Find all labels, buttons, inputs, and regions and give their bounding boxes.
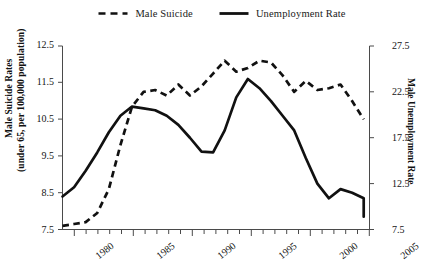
- left-axis-ticks: [58, 46, 63, 230]
- chart-figure: Male Suicide Unemployment Rate Male Suic…: [0, 0, 444, 278]
- series-line-male-suicide: [63, 61, 364, 226]
- right-axis-ticks: [370, 46, 375, 230]
- x-axis-ticks: [74, 230, 369, 237]
- series-line-unemployment-rate: [63, 79, 364, 217]
- plot-area: [0, 0, 444, 278]
